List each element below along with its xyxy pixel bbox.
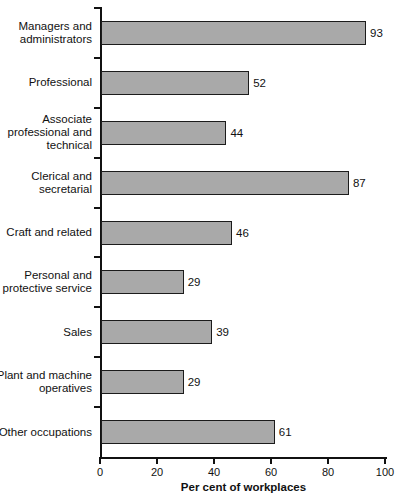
category-label: Professional bbox=[0, 76, 92, 89]
x-tick-label-40: 40 bbox=[194, 466, 234, 478]
bar bbox=[101, 270, 184, 294]
category-label: Sales bbox=[0, 326, 92, 339]
y-tick-4 bbox=[94, 207, 102, 209]
x-tick-0 bbox=[99, 457, 101, 464]
y-tick-3 bbox=[94, 157, 102, 159]
bar-value-label: 29 bbox=[188, 276, 201, 288]
bar-value-label: 93 bbox=[370, 27, 383, 39]
y-tick-5 bbox=[94, 256, 102, 258]
bar-chart: 020406080100 Managers and administrators… bbox=[0, 0, 404, 498]
y-tick-7 bbox=[94, 356, 102, 358]
bar bbox=[101, 320, 212, 344]
bar-value-label: 87 bbox=[353, 177, 366, 189]
x-tick-label-20: 20 bbox=[137, 466, 177, 478]
category-label: Associate professional and technical bbox=[0, 113, 92, 152]
bar bbox=[101, 71, 249, 95]
x-tick-60 bbox=[270, 457, 272, 464]
category-label: Plant and machine operatives bbox=[0, 369, 92, 395]
y-tick-0 bbox=[94, 7, 102, 9]
bar bbox=[101, 121, 226, 145]
x-tick-80 bbox=[327, 457, 329, 464]
category-label: Managers and administrators bbox=[0, 20, 92, 46]
x-tick-40 bbox=[213, 457, 215, 464]
x-axis-title: Per cent of workplaces bbox=[100, 481, 387, 493]
y-tick-6 bbox=[94, 306, 102, 308]
x-tick-100 bbox=[384, 457, 386, 464]
bar bbox=[101, 370, 184, 394]
bar bbox=[101, 420, 275, 444]
bar-value-label: 44 bbox=[230, 127, 243, 139]
category-label: Other occupations bbox=[0, 426, 92, 439]
bar bbox=[101, 21, 366, 45]
x-tick-label-0: 0 bbox=[80, 466, 120, 478]
category-label: Personal and protective service bbox=[0, 269, 92, 295]
bar bbox=[101, 171, 349, 195]
x-tick-label-80: 80 bbox=[308, 466, 348, 478]
bar-value-label: 61 bbox=[279, 426, 292, 438]
bar-value-label: 52 bbox=[253, 77, 266, 89]
y-tick-1 bbox=[94, 57, 102, 59]
x-axis-line bbox=[100, 457, 387, 459]
x-tick-20 bbox=[156, 457, 158, 464]
bar-value-label: 29 bbox=[188, 376, 201, 388]
bar-value-label: 39 bbox=[216, 326, 229, 338]
category-label: Clerical and secretarial bbox=[0, 170, 92, 196]
bar-value-label: 46 bbox=[236, 227, 249, 239]
x-tick-label-60: 60 bbox=[251, 466, 291, 478]
y-tick-8 bbox=[94, 406, 102, 408]
x-tick-label-100: 100 bbox=[365, 466, 404, 478]
category-label: Craft and related bbox=[0, 226, 92, 239]
y-tick-2 bbox=[94, 107, 102, 109]
bar bbox=[101, 221, 232, 245]
